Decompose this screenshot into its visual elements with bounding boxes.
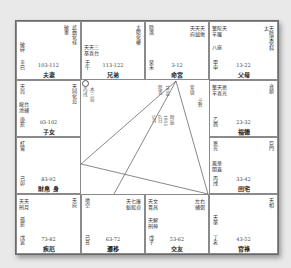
zi-wei-chart: 武曲化祿 破軍 破碎 辛巳 103-112 夫妻 太陽化權 天天三 巫喜台 壬午…: [15, 20, 279, 255]
aspect-lines: [16, 21, 278, 254]
